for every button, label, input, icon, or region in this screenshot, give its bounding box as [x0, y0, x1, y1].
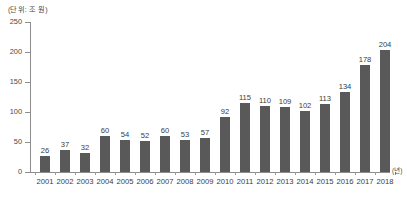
- x-tick-mark: [195, 172, 196, 175]
- bar-value-label: 57: [195, 128, 215, 137]
- bar-slot: 32: [75, 22, 95, 172]
- x-tick-mark: [35, 172, 36, 175]
- bar-value-label: 52: [135, 131, 155, 140]
- x-tick-mark: [275, 172, 276, 175]
- bar-value-label: 134: [335, 82, 355, 91]
- bar[interactable]: [260, 106, 270, 172]
- bar-slot: 115: [235, 22, 255, 172]
- bar[interactable]: [240, 103, 250, 172]
- y-tick-label: 150: [0, 77, 22, 86]
- x-tick-mark: [295, 172, 296, 175]
- bar-value-label: 102: [295, 101, 315, 110]
- x-tick-mark: [335, 172, 336, 175]
- bar[interactable]: [360, 65, 370, 172]
- x-tick-mark: [75, 172, 76, 175]
- x-tick-mark: [255, 172, 256, 175]
- y-tick-mark: [25, 142, 30, 143]
- x-tick-mark: [315, 172, 316, 175]
- bar[interactable]: [340, 92, 350, 172]
- bar[interactable]: [40, 156, 50, 172]
- bar-value-label: 37: [55, 140, 75, 149]
- x-tick-mark: [175, 172, 176, 175]
- bar-slot: 26: [35, 22, 55, 172]
- bar-slot: 57: [195, 22, 215, 172]
- bar[interactable]: [180, 140, 190, 172]
- bar-value-label: 60: [95, 126, 115, 135]
- bar-slot: 110: [255, 22, 275, 172]
- x-tick-mark: [155, 172, 156, 175]
- x-tick-mark: [135, 172, 136, 175]
- bar-slot: 134: [335, 22, 355, 172]
- y-tick-mark: [25, 172, 30, 173]
- bar[interactable]: [380, 50, 390, 172]
- bar-slot: 37: [55, 22, 75, 172]
- bar-slot: 113: [315, 22, 335, 172]
- bar-value-label: 113: [315, 94, 335, 103]
- x-tick-mark: [55, 172, 56, 175]
- bar-slot: 109: [275, 22, 295, 172]
- bar[interactable]: [280, 107, 290, 172]
- bar-value-label: 53: [175, 130, 195, 139]
- bar-slot: 102: [295, 22, 315, 172]
- bar-slot: 52: [135, 22, 155, 172]
- bar-value-label: 204: [375, 40, 395, 49]
- x-tick-mark: [375, 172, 376, 175]
- unit-caption: (단위: 조 원): [8, 4, 48, 14]
- y-tick-label: 100: [0, 107, 22, 116]
- y-tick-label: 50: [0, 137, 22, 146]
- x-tick-mark: [355, 172, 356, 175]
- bar-value-label: 110: [255, 96, 275, 105]
- bar[interactable]: [60, 150, 70, 172]
- bar-slot: 60: [155, 22, 175, 172]
- x-tick-mark: [115, 172, 116, 175]
- y-tick-label: 0: [0, 167, 22, 176]
- bar-value-label: 32: [75, 143, 95, 152]
- bar-value-label: 115: [235, 93, 255, 102]
- x-axis-unit-label: (년): [392, 165, 402, 175]
- bar-slot: 178: [355, 22, 375, 172]
- bar[interactable]: [200, 138, 210, 172]
- bar[interactable]: [320, 104, 330, 172]
- y-tick-mark: [25, 22, 30, 23]
- bar[interactable]: [160, 136, 170, 172]
- y-tick-mark: [25, 52, 30, 53]
- bar-slot: 204: [375, 22, 395, 172]
- bar[interactable]: [120, 140, 130, 172]
- bar[interactable]: [300, 111, 310, 172]
- bar[interactable]: [220, 117, 230, 172]
- y-tick-mark: [25, 82, 30, 83]
- x-axis-label: 2018: [373, 177, 397, 187]
- bar[interactable]: [80, 153, 90, 172]
- bar[interactable]: [140, 141, 150, 172]
- bar-value-label: 54: [115, 130, 135, 139]
- bar-slot: 53: [175, 22, 195, 172]
- x-tick-mark: [215, 172, 216, 175]
- y-tick-label: 200: [0, 47, 22, 56]
- bar[interactable]: [100, 136, 110, 172]
- bar-slot: 60: [95, 22, 115, 172]
- bar-value-label: 178: [355, 55, 375, 64]
- bar-slot: 54: [115, 22, 135, 172]
- bar-value-label: 92: [215, 107, 235, 116]
- x-tick-mark: [235, 172, 236, 175]
- y-tick-label: 250: [0, 17, 22, 26]
- y-tick-mark: [25, 112, 30, 113]
- x-tick-mark: [95, 172, 96, 175]
- y-axis-line: [30, 22, 31, 172]
- bar-slot: 92: [215, 22, 235, 172]
- bar-value-label: 60: [155, 126, 175, 135]
- x-axis-line: [30, 172, 390, 173]
- bar-value-label: 26: [35, 146, 55, 155]
- bar-value-label: 109: [275, 97, 295, 106]
- bar-chart: (단위: 조 원) 050100150200250 26373260545260…: [0, 0, 407, 205]
